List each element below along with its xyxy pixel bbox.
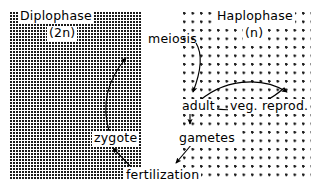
- zygote-label: zygote: [92, 131, 139, 146]
- haplophase-label: Haplophase: [215, 9, 295, 24]
- life-cycle-diagram: Diplophase (2n) Haplophase (n) meiosis f…: [0, 0, 319, 195]
- haplophase-ploidy-label: (n): [243, 26, 265, 41]
- gametes-label: gametes: [177, 131, 237, 146]
- diplophase-label: Diplophase: [18, 9, 94, 24]
- diplophase-ploidy-label: (2n): [47, 26, 77, 41]
- meiosis-label: meiosis: [146, 32, 199, 47]
- adult-label: adult: [180, 99, 217, 114]
- veg-reprod-label: veg. reprod.: [228, 99, 310, 114]
- fertilization-label: fertilization: [124, 168, 201, 183]
